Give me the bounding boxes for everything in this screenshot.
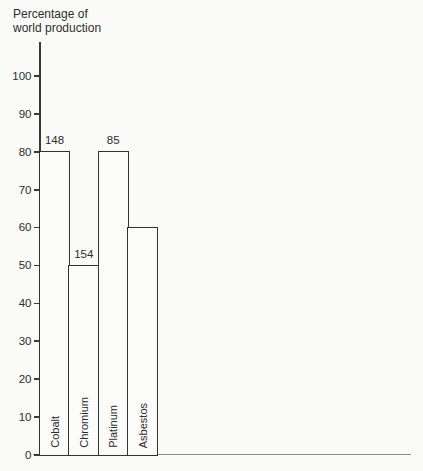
y-tick-mark bbox=[34, 75, 40, 77]
y-tick-label: 80 bbox=[0, 145, 32, 159]
bar-category-label-wrap: Asbestos bbox=[130, 320, 155, 455]
y-tick-label: 50 bbox=[0, 258, 32, 272]
bar-chart: Percentage of world production 010203040… bbox=[0, 0, 423, 471]
y-axis-title-line2: world production bbox=[13, 21, 101, 35]
y-tick-label: 90 bbox=[0, 107, 32, 121]
bar-category-label: Cobalt bbox=[49, 416, 61, 448]
y-tick-label: 30 bbox=[0, 334, 32, 348]
bar-category-label: Asbestos bbox=[137, 403, 149, 448]
y-tick-label: 10 bbox=[0, 410, 32, 424]
bar-category-label-wrap: Platinum bbox=[101, 320, 127, 455]
y-tick-label: 20 bbox=[0, 372, 32, 386]
bar-value-label-cobalt: 148 bbox=[40, 134, 69, 148]
y-tick-mark bbox=[34, 113, 40, 115]
y-tick-label: 40 bbox=[0, 296, 32, 310]
bar-category-label-wrap: Cobalt bbox=[42, 320, 67, 455]
bar-category-label-wrap: Chromium bbox=[71, 320, 97, 455]
y-tick-label: 0 bbox=[0, 448, 32, 462]
bar-value-label-platinum: 85 bbox=[99, 134, 129, 148]
y-axis-title-line1: Percentage of bbox=[13, 7, 101, 21]
y-tick-label: 100 bbox=[0, 69, 32, 83]
bar-value-label-chromium: 154 bbox=[69, 248, 99, 262]
y-axis-title: Percentage of world production bbox=[13, 7, 101, 35]
y-tick-label: 70 bbox=[0, 183, 32, 197]
y-tick-label: 60 bbox=[0, 220, 32, 234]
bar-category-label: Platinum bbox=[107, 405, 119, 448]
bar-category-label: Chromium bbox=[78, 397, 90, 448]
